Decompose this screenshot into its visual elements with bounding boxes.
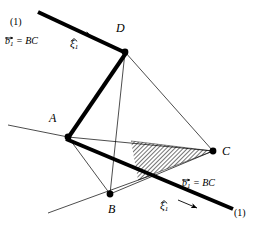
xi-unit-vector-bottom: ξ1 xyxy=(160,200,168,213)
thick-bar-upper-axis xyxy=(38,12,126,53)
xi-symbol-top: ξ xyxy=(70,38,75,49)
vertex-dot-A xyxy=(65,134,72,141)
b-vector-equation-bottom: b1 = BC xyxy=(182,178,215,190)
vertex-label-B: B xyxy=(108,203,115,215)
edge-A-B xyxy=(68,137,110,194)
b-letter-top: b xyxy=(5,35,10,46)
b-vector-equation-top: b1 = BC xyxy=(5,36,38,48)
xi-subscript-top: 1 xyxy=(75,43,79,51)
b-letter-bottom: b xyxy=(182,177,187,188)
b-subscript-bottom: 1 xyxy=(187,182,191,190)
vertex-dot-C xyxy=(210,148,217,155)
vertex-dot-B xyxy=(107,191,114,198)
xi-symbol-bottom: ξ xyxy=(160,200,165,211)
xi-direction-arrow-top xyxy=(73,28,91,36)
vertex-label-C: C xyxy=(222,145,230,157)
b-subscript-top: 1 xyxy=(10,40,14,48)
b-vector-symbol-bottom: b xyxy=(182,178,187,188)
vertex-label-A: A xyxy=(49,112,56,124)
xi-unit-vector-top: ξ1 xyxy=(70,38,78,51)
b-equation-rest-top: = BC xyxy=(16,35,38,46)
xi-glyph-bottom: ξ xyxy=(160,199,165,211)
xi-subscript-bottom: 1 xyxy=(165,205,169,213)
vertex-label-D: D xyxy=(116,22,125,34)
b-vector-symbol-top: b xyxy=(5,36,10,46)
thin-extension-left xyxy=(8,125,68,137)
vertex-dot-D xyxy=(122,49,129,56)
screw-axis-tetrahedron-figure: D A C B (1) b1 = BC ξ1 b1 = BC xyxy=(0,0,253,230)
line-identifier-bottom: (1) xyxy=(234,208,246,218)
line-identifier-top: (1) xyxy=(10,17,22,27)
edge-D-C xyxy=(125,52,213,151)
b-equation-rest-bottom: = BC xyxy=(193,177,215,188)
thin-extension-bottom-left xyxy=(48,174,155,213)
xi-direction-arrow-bottom xyxy=(178,200,197,208)
xi-glyph-top: ξ xyxy=(70,37,75,49)
